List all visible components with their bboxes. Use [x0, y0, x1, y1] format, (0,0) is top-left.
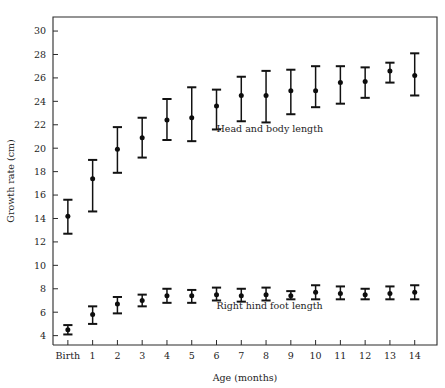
- data-point-marker: [140, 135, 145, 140]
- chart-canvas: 4681012141618202224262830Birth1234567891…: [0, 0, 445, 388]
- data-point-marker: [239, 93, 244, 98]
- x-tick-label-10: 10: [310, 350, 322, 361]
- y-tick-label-12: 12: [34, 236, 46, 247]
- data-point-marker: [363, 292, 368, 297]
- y-axis-title: Growth rate (cm): [5, 139, 16, 222]
- y-tick-label-4: 4: [40, 330, 46, 341]
- x-tick-label-9: 9: [288, 350, 294, 361]
- x-tick-label-3: 3: [139, 350, 145, 361]
- y-tick-label-20: 20: [34, 143, 46, 154]
- y-tick-label-28: 28: [34, 49, 46, 60]
- x-tick-label-2: 2: [114, 350, 120, 361]
- data-point-marker: [239, 293, 244, 298]
- data-point-marker: [412, 73, 417, 78]
- series-annotation-head-and-body-length: Head and body length: [217, 123, 324, 134]
- x-tick-label-14: 14: [409, 350, 421, 361]
- x-tick-label-4: 4: [164, 350, 170, 361]
- y-tick-label-22: 22: [34, 119, 46, 130]
- y-tick-label-8: 8: [40, 283, 46, 294]
- data-point-marker: [313, 88, 318, 93]
- y-tick-label-18: 18: [34, 166, 46, 177]
- x-tick-label-12: 12: [359, 350, 371, 361]
- series-annotation-right-hind-foot-length: Right hind foot length: [217, 300, 323, 311]
- data-point-marker: [412, 290, 417, 295]
- x-tick-label-13: 13: [384, 350, 396, 361]
- x-tick-label-6: 6: [213, 350, 219, 361]
- x-tick-label-Birth: Birth: [56, 350, 81, 361]
- y-tick-label-10: 10: [34, 260, 46, 271]
- data-point-marker: [140, 298, 145, 303]
- data-point-marker: [189, 293, 194, 298]
- data-point-marker: [115, 147, 120, 152]
- data-point-marker: [214, 104, 219, 109]
- data-point-marker: [338, 291, 343, 296]
- y-tick-label-24: 24: [34, 96, 46, 107]
- data-point-marker: [387, 291, 392, 296]
- y-tick-label-26: 26: [34, 72, 46, 83]
- x-axis-title: Age (months): [212, 372, 278, 383]
- data-point-marker: [90, 176, 95, 181]
- growth-rate-chart: 4681012141618202224262830Birth1234567891…: [0, 0, 445, 388]
- data-point-marker: [164, 118, 169, 123]
- data-point-marker: [264, 292, 269, 297]
- data-point-marker: [115, 302, 120, 307]
- data-point-marker: [363, 79, 368, 84]
- x-tick-label-8: 8: [263, 350, 269, 361]
- y-tick-label-16: 16: [34, 189, 46, 200]
- data-point-marker: [288, 293, 293, 298]
- x-tick-label-7: 7: [238, 350, 244, 361]
- data-point-marker: [288, 88, 293, 93]
- data-point-marker: [65, 327, 70, 332]
- data-point-marker: [90, 312, 95, 317]
- data-point-marker: [214, 292, 219, 297]
- data-point-marker: [338, 80, 343, 85]
- x-tick-label-1: 1: [90, 350, 96, 361]
- data-point-marker: [164, 293, 169, 298]
- data-point-marker: [264, 93, 269, 98]
- y-tick-label-14: 14: [34, 213, 46, 224]
- plot-frame: [53, 17, 437, 345]
- series-head-and-body-length: [63, 53, 419, 233]
- y-tick-label-30: 30: [34, 25, 46, 36]
- x-tick-label-11: 11: [334, 350, 346, 361]
- data-point-marker: [189, 115, 194, 120]
- data-point-marker: [313, 290, 318, 295]
- x-tick-label-5: 5: [189, 350, 195, 361]
- y-tick-label-6: 6: [40, 307, 46, 318]
- data-point-marker: [387, 68, 392, 73]
- data-point-marker: [65, 214, 70, 219]
